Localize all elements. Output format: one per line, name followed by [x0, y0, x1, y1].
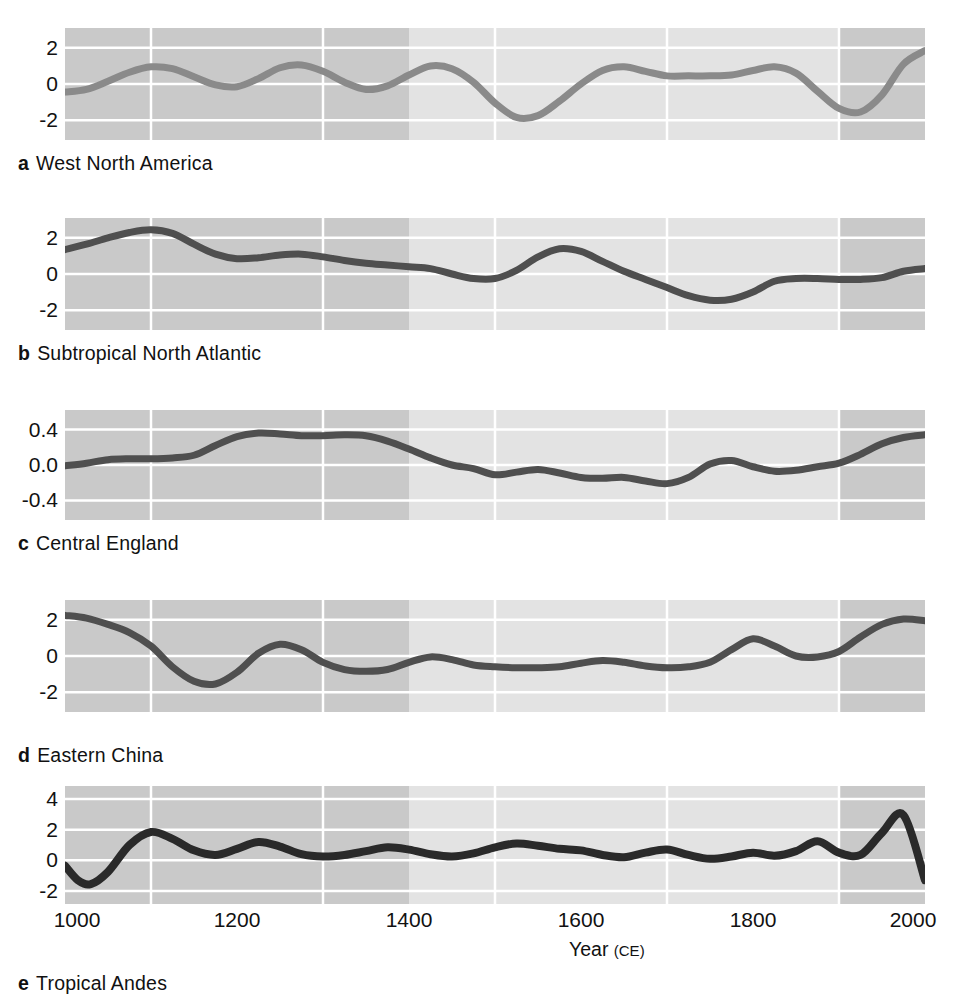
y-tick-label: 2: [46, 36, 58, 60]
x-axis-label-unit: (CE): [614, 942, 645, 959]
x-tick-label: 1200: [214, 908, 261, 932]
y-axis-d: -202: [0, 600, 58, 712]
y-tick-label: 2: [46, 608, 58, 632]
plot-area-b: [65, 218, 925, 330]
plot-area-c: [65, 410, 925, 520]
x-axis-label-main: Year: [569, 938, 608, 960]
plot-area-e: [65, 786, 925, 904]
y-tick-label: 0: [46, 72, 58, 96]
y-axis-c: -0.40.00.4: [0, 410, 58, 520]
x-tick-label: 1600: [558, 908, 605, 932]
highlight-span: [409, 786, 839, 904]
y-tick-label: 0: [46, 644, 58, 668]
panel-letter: e: [18, 972, 29, 994]
panel-caption-d: dEastern China: [18, 744, 163, 767]
y-tick-label: -2: [39, 298, 58, 322]
y-axis-e: -2024: [0, 786, 58, 904]
panel-label: Tropical Andes: [36, 972, 167, 994]
x-tick-label: 2000: [890, 908, 937, 932]
y-tick-label: 0: [46, 848, 58, 872]
y-tick-label: 0: [46, 262, 58, 286]
panel-caption-b: bSubtropical North Atlantic: [18, 342, 261, 365]
plot-area-d: [65, 600, 925, 712]
y-tick-label: -2: [39, 879, 58, 903]
y-tick-label: 2: [46, 226, 58, 250]
y-axis-a: -202: [0, 28, 58, 140]
x-tick-label: 1000: [54, 908, 101, 932]
panel-letter: a: [18, 152, 29, 174]
y-tick-label: 0.0: [29, 453, 58, 477]
y-axis-b: -202: [0, 218, 58, 330]
panel-label: Central England: [36, 532, 179, 554]
panel-caption-c: cCentral England: [18, 532, 179, 555]
y-tick-label: 2: [46, 818, 58, 842]
y-tick-label: 0.4: [29, 418, 58, 442]
panel-caption-e: eTropical Andes: [18, 972, 167, 995]
y-tick-label: 4: [46, 787, 58, 811]
x-tick-label: 1400: [386, 908, 433, 932]
panel-label: Eastern China: [37, 744, 163, 766]
panel-label: West North America: [36, 152, 213, 174]
y-tick-label: -2: [39, 108, 58, 132]
x-tick-label: 1800: [730, 908, 777, 932]
panel-caption-a: aWest North America: [18, 152, 213, 175]
panel-letter: b: [18, 342, 30, 364]
panel-letter: d: [18, 744, 30, 766]
panel-e: -2024: [0, 786, 971, 998]
panel-letter: c: [18, 532, 29, 554]
y-tick-label: -0.4: [22, 488, 58, 512]
x-axis-label: Year (CE): [569, 938, 645, 961]
climate-proxy-multipanel-figure: -202aWest North America-202bSubtropical …: [0, 0, 971, 1007]
y-tick-label: -2: [39, 680, 58, 704]
plot-area-a: [65, 28, 925, 140]
panel-label: Subtropical North Atlantic: [37, 342, 261, 364]
